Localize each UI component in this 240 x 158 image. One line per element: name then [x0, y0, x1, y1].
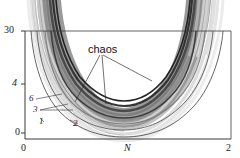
chaos-leader-3 — [103, 55, 152, 81]
curve-label-2: 2 — [73, 119, 78, 128]
figure-canvas — [0, 0, 240, 158]
x-tick-label-2: 2 — [226, 143, 231, 153]
chaos-annotation-label: chaos — [88, 44, 117, 55]
x-axis-name-label: N — [124, 143, 131, 153]
curve-label-3: 3 — [33, 105, 38, 114]
y-tick-label-30: 30 — [4, 25, 14, 35]
curve-label-1: 1 — [39, 117, 44, 126]
chaos-stability-diagram: 30 4 0 0 N 2 chaos 6 3 1 2 — [0, 0, 240, 158]
curve-label-6: 6 — [29, 94, 34, 103]
x-origin-label: 0 — [21, 143, 26, 153]
y-tick-label-4: 4 — [12, 78, 17, 88]
y-tick-label-0: 0 — [15, 127, 20, 137]
